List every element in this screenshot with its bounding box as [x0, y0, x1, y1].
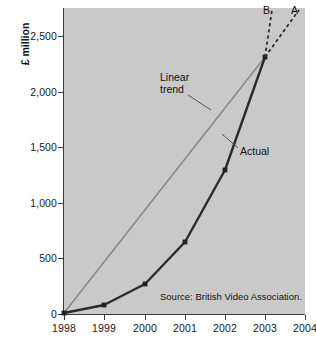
projection-label-a: A [291, 4, 298, 16]
linear-trend-annotation-line2: trend [160, 83, 189, 95]
linear-trend-annotation: Linear trend [160, 71, 189, 95]
linear-trend-leader-line [188, 95, 211, 110]
linear-trend-annotation-line1: Linear [160, 71, 189, 83]
chart-container: £ million 0 500 1,000 1,500 2,000 2,500 … [0, 0, 316, 346]
data-point-1998 [62, 311, 67, 316]
data-point-2002 [223, 168, 228, 173]
projection-label-b: B [263, 4, 270, 16]
data-point-2000 [143, 282, 148, 287]
actual-annotation: Actual [240, 145, 269, 157]
data-point-2001 [183, 240, 188, 245]
source-note: Source: British Video Association. [160, 291, 302, 302]
linear-trend-line [64, 57, 265, 313]
data-point-1999 [102, 303, 107, 308]
